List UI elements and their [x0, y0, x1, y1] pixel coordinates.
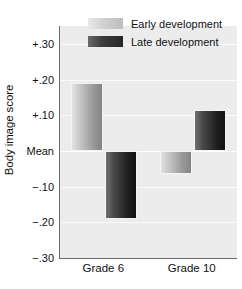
bar-grade-6-late	[105, 151, 137, 219]
gridline	[60, 80, 237, 81]
y-axis-tick-label: +.30	[32, 38, 54, 50]
legend-label: Early development	[131, 18, 222, 30]
plot-area	[59, 26, 237, 259]
y-axis-tick-label: Mean	[26, 145, 54, 157]
gridline	[60, 187, 237, 188]
x-axis-tick-label: Grade 6	[82, 262, 124, 274]
x-axis-tick-labels: Grade 6Grade 10	[59, 262, 236, 282]
legend-swatch-early	[88, 18, 123, 29]
chart-legend: Early developmentLate development	[88, 16, 238, 52]
legend-item: Early development	[88, 16, 238, 31]
gridline	[60, 222, 237, 223]
legend-item: Late development	[88, 34, 238, 49]
y-axis-title-text: Body image score	[3, 85, 15, 175]
baseline-mean-line	[60, 151, 237, 152]
y-axis-tick-label: +.10	[32, 109, 54, 121]
y-axis-tick-label: −.20	[32, 216, 54, 228]
x-axis-tick-label: Grade 10	[168, 262, 216, 274]
y-axis-tick-labels: +.30+.20+.10Mean−.10−.20−.30	[16, 26, 54, 258]
legend-swatch-late	[88, 36, 123, 47]
bar-grade-10-late	[194, 110, 226, 151]
y-axis-tick-label: +.20	[32, 74, 54, 86]
y-axis-tick-label: −.30	[32, 252, 54, 264]
y-axis-tick-label: −.10	[32, 181, 54, 193]
legend-label: Late development	[131, 36, 218, 48]
bar-grade-6-early	[71, 83, 103, 151]
bar-grade-10-early	[160, 151, 192, 174]
chart-figure: Body image score +.30+.20+.10Mean−.10−.2…	[0, 0, 242, 289]
